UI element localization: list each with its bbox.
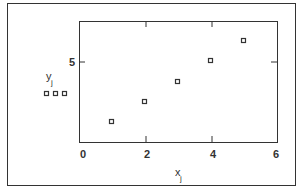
data-point [242, 39, 246, 43]
data-point [209, 59, 213, 63]
chart-figure: 0 2 4 6 5 x j y j [0, 0, 298, 189]
y-tick-label-5: 5 [69, 56, 75, 68]
svg-text:j: j [179, 174, 182, 183]
x-tick-labels: 0 2 4 6 [80, 148, 279, 160]
svg-text:j: j [50, 78, 53, 87]
svg-text:6: 6 [273, 148, 279, 160]
data-points [110, 39, 246, 124]
outer-frame [8, 4, 296, 186]
data-point [176, 80, 180, 84]
x-axis-label: x j [175, 166, 182, 183]
scatter-plot: 0 2 4 6 5 x j y j [0, 0, 298, 189]
svg-text:2: 2 [144, 148, 150, 160]
legend-markers [45, 92, 67, 96]
data-point [110, 120, 114, 124]
svg-text:4: 4 [210, 148, 217, 160]
y-axis-label: y j [46, 70, 53, 87]
svg-text:0: 0 [80, 148, 86, 160]
data-point [143, 100, 147, 104]
